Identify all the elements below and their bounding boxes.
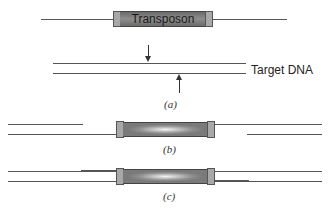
c-top-filled-gap [81, 170, 116, 172]
target-dna-bottom-strand [53, 73, 246, 74]
transposon-label: Transposon [120, 11, 206, 27]
b-top-right-strand [215, 124, 322, 125]
c-bottom-filled-gap [215, 180, 249, 182]
c-top-right-strand [215, 171, 322, 172]
b-bottom-left-strand [8, 134, 116, 135]
caption-a: (a) [164, 98, 177, 110]
b-bottom-right-strand [247, 134, 322, 135]
target-dna-label: Target DNA [251, 63, 313, 77]
target-dna-top-strand [53, 63, 246, 64]
transposon-right-end [205, 11, 213, 27]
b-transposon-right-end [207, 121, 215, 138]
caption-c: (c) [163, 190, 175, 202]
b-top-left-strand [8, 124, 83, 125]
donor-dna-right [213, 19, 287, 20]
c-transposon-body [123, 169, 208, 184]
cut-arrow-bottom-shaft [179, 79, 180, 93]
c-bottom-left-strand [8, 181, 116, 182]
b-transposon-body [123, 122, 208, 137]
transposon-body: Transposon [120, 11, 206, 27]
cut-arrow-down-icon [145, 56, 151, 62]
caption-b: (b) [163, 143, 176, 155]
c-transposon-right-end [207, 168, 215, 185]
donor-dna-left [41, 19, 114, 20]
